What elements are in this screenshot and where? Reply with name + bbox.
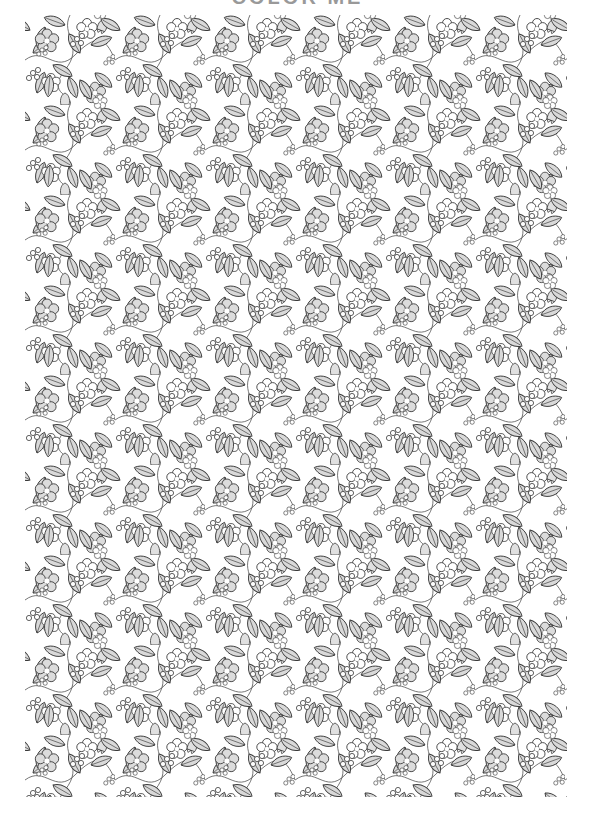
pattern-overlay bbox=[25, 15, 567, 797]
floral-pattern-svg bbox=[25, 15, 567, 797]
floral-pattern bbox=[25, 15, 567, 797]
page-title: COLOR ME bbox=[0, 0, 595, 9]
